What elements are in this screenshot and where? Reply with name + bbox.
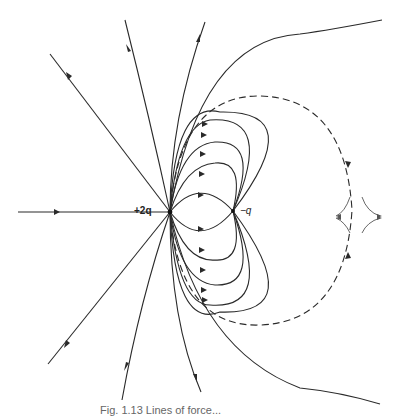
figure-caption: Fig. 1.13 Lines of force... [100, 404, 221, 416]
connecting-lines-lower [170, 211, 269, 314]
connecting-lines-upper [170, 111, 269, 212]
neutral-point-lines [336, 197, 382, 233]
negative-charge [231, 209, 235, 213]
positive-charge [168, 210, 173, 215]
field-lines-svg [0, 0, 399, 416]
positive-charge-label: +2q [134, 205, 152, 216]
separatrix-line [170, 96, 352, 325]
connecting-arrows [198, 121, 208, 303]
outer-field-lines [18, 20, 382, 404]
negative-charge-label: −q [240, 205, 251, 216]
field-lines-figure [0, 0, 399, 416]
